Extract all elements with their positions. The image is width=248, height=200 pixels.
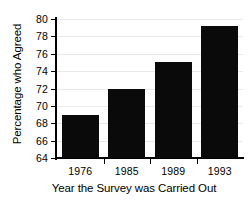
plot-area [57,19,243,158]
y-tick-mark [51,158,56,159]
y-tick-label: 72 [26,84,48,94]
x-axis-title: Year the Survey was Carried Out [22,182,246,194]
y-tick-label: 74 [26,66,48,76]
gridline [57,19,243,20]
y-tick-label: 66 [26,136,48,146]
y-axis-title: Percentage who Agreed [9,5,25,163]
y-tick-label: 78 [26,31,48,41]
bar [155,62,192,158]
y-tick-label: 70 [26,101,48,111]
y-tick-mark [51,89,56,90]
x-tick-label: 1985 [104,166,150,177]
y-tick-label: 80 [26,14,48,24]
y-tick-label: 64 [26,153,48,163]
x-tick-label: 1993 [197,166,243,177]
x-tick-label: 1989 [150,166,196,177]
y-tick-mark [51,36,56,37]
bar [62,115,99,158]
bar [201,26,238,158]
x-tick-mark [150,159,151,164]
y-tick-mark [51,19,56,20]
x-tick-mark [104,159,105,164]
bar-chart-figure: Percentage who Agreed 646668707274767880… [0,0,248,200]
y-tick-mark [51,71,56,72]
x-tick-mark [197,159,198,164]
bar [108,89,145,159]
y-tick-label: 76 [26,49,48,59]
y-tick-mark [51,141,56,142]
x-tick-label: 1976 [57,166,103,177]
y-tick-mark [51,54,56,55]
y-tick-mark [51,106,56,107]
y-tick-mark [51,123,56,124]
y-tick-label: 68 [26,118,48,128]
